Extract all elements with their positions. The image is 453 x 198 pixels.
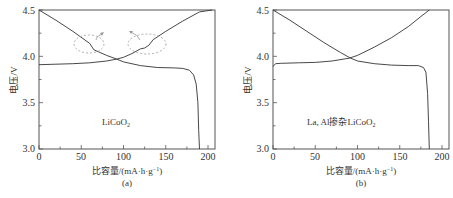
x-axis-label-b: 比容量/(mA·h·g−1)	[326, 165, 396, 176]
x-tick-b-0: 0	[271, 151, 276, 162]
x-tick-a-200: 200	[201, 151, 216, 162]
y-tick-a-3.0: 3.0	[23, 143, 36, 154]
highlight-ellipse-left	[74, 35, 104, 53]
discharge-curve-a	[39, 10, 200, 149]
annotation-b: La, Al掺杂LiCoO2	[307, 116, 376, 128]
panel-label-a: (a)	[122, 178, 132, 188]
plot-frame-b	[273, 10, 449, 149]
panel-label-b: (b)	[356, 178, 367, 188]
x-tick-b-200: 200	[435, 151, 450, 162]
x-tick-a-150: 150	[159, 151, 174, 162]
y-axis-label-a: 电压/V	[8, 66, 19, 94]
figure: 4.5 4.0 3.5 3.0 0 50 100 150 200 电压/V 比容…	[0, 0, 453, 198]
arrow-left-icon	[96, 34, 102, 40]
x-tick-b-50: 50	[310, 151, 320, 162]
y-tick-a-4.0: 4.0	[23, 51, 36, 62]
arrowhead-left-icon	[100, 32, 104, 36]
highlight-ellipse-right	[128, 34, 166, 54]
annotation-a: LiCoO2	[102, 117, 130, 128]
y-tick-b-3.0: 3.0	[257, 143, 270, 154]
plot-frame-a	[39, 10, 215, 149]
y-tick-b-4.5: 4.5	[257, 5, 270, 16]
panel-b: 4.5 4.0 3.5 3.0 0 50 100 150 200 电压/V 比容…	[242, 5, 450, 188]
discharge-curve-b	[273, 10, 429, 149]
y-axis-label-b: 电压/V	[242, 66, 253, 94]
x-tick-a-0: 0	[37, 151, 42, 162]
axis-ticks-b	[273, 10, 442, 149]
y-tick-a-4.5: 4.5	[23, 5, 36, 16]
axis-ticks-a	[39, 10, 208, 149]
x-tick-b-100: 100	[350, 151, 365, 162]
charge-curve-a	[39, 10, 212, 65]
y-tick-b-3.5: 3.5	[257, 97, 270, 108]
y-tick-a-3.5: 3.5	[23, 97, 36, 108]
x-tick-a-50: 50	[76, 151, 86, 162]
panel-a: 4.5 4.0 3.5 3.0 0 50 100 150 200 电压/V 比容…	[8, 5, 216, 188]
x-axis-label-a: 比容量/(mA·h·g−1)	[92, 165, 162, 176]
x-tick-a-100: 100	[116, 151, 131, 162]
x-tick-b-150: 150	[393, 151, 408, 162]
y-tick-b-4.0: 4.0	[257, 51, 270, 62]
